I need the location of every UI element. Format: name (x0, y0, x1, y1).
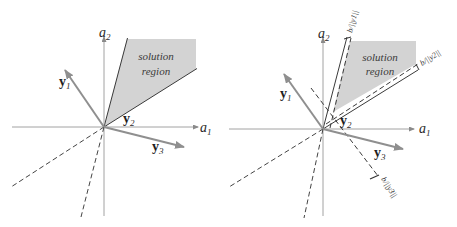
margin-bracket-y1 (344, 37, 351, 39)
dashed-line-left-1 (11, 127, 104, 187)
vector-y3-left (104, 127, 184, 147)
region-label-right-1: solution (362, 51, 398, 63)
margin-bracket-y3 (370, 175, 379, 179)
diagram-canvas: a2 a1 solution region y1 y2 y3 a2 (0, 0, 457, 227)
axis-a1-label-left: a1 (200, 120, 212, 137)
dashed-line-right-1 (229, 129, 323, 187)
axis-a1-label-right: a1 (419, 121, 431, 138)
vector-y1-label-right: y1 (280, 86, 292, 103)
vector-y2-label-right: y2 (340, 113, 352, 130)
dashed-line-right-2 (304, 129, 323, 218)
margin-label-y3: b/||y3|| (379, 175, 399, 199)
axis-a2-label-right: a2 (318, 26, 330, 43)
region-label-right-2: region (366, 65, 395, 77)
vector-y3-right (323, 129, 403, 149)
margin-label-y1: b/||y1|| (345, 9, 360, 33)
left-panel: a2 a1 solution region y1 y2 y3 (11, 25, 212, 217)
vector-y1-left (65, 70, 104, 127)
right-panel: a2 a1 solution region y1 y2 y3 b/||y1|| … (229, 9, 442, 218)
region-label-left-1: solution (138, 50, 174, 62)
axis-a2-label-left: a2 (99, 25, 111, 42)
region-label-left-2: region (142, 65, 171, 77)
dashed-line-left-2 (81, 127, 104, 217)
margin-label-y2: b/||y2|| (418, 48, 442, 68)
vector-y2-label-left: y2 (123, 111, 135, 128)
vector-y3-label-right: y3 (374, 145, 386, 162)
